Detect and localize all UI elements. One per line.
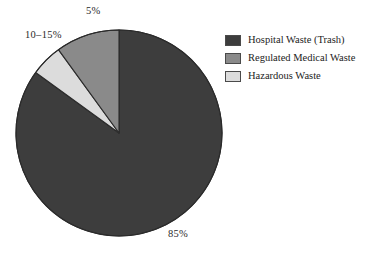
legend-item-hazardous-waste: Hazardous Waste (225, 67, 375, 85)
pie-chart-figure: 5% 10–15% 85% Hospital Waste (Trash) Reg… (0, 0, 377, 254)
legend-swatch-regulated-medical-waste (225, 53, 241, 64)
legend-item-hospital-waste: Hospital Waste (Trash) (225, 31, 375, 49)
pie-plot-area: 5% 10–15% 85% (0, 0, 240, 254)
slice-label-regulated: 10–15% (25, 30, 62, 41)
chart-legend: Hospital Waste (Trash) Regulated Medical… (225, 31, 375, 85)
legend-item-regulated-medical-waste: Regulated Medical Waste (225, 49, 375, 67)
legend-label-hospital-waste: Hospital Waste (Trash) (248, 34, 345, 46)
legend-label-regulated-medical-waste: Regulated Medical Waste (248, 52, 355, 64)
slice-label-hospital: 85% (168, 229, 188, 240)
legend-label-hazardous-waste: Hazardous Waste (248, 70, 321, 82)
slice-label-hazardous: 5% (86, 6, 101, 17)
legend-swatch-hazardous-waste (225, 71, 241, 82)
legend-swatch-hospital-waste (225, 35, 241, 46)
pie-slice-group (16, 30, 222, 236)
